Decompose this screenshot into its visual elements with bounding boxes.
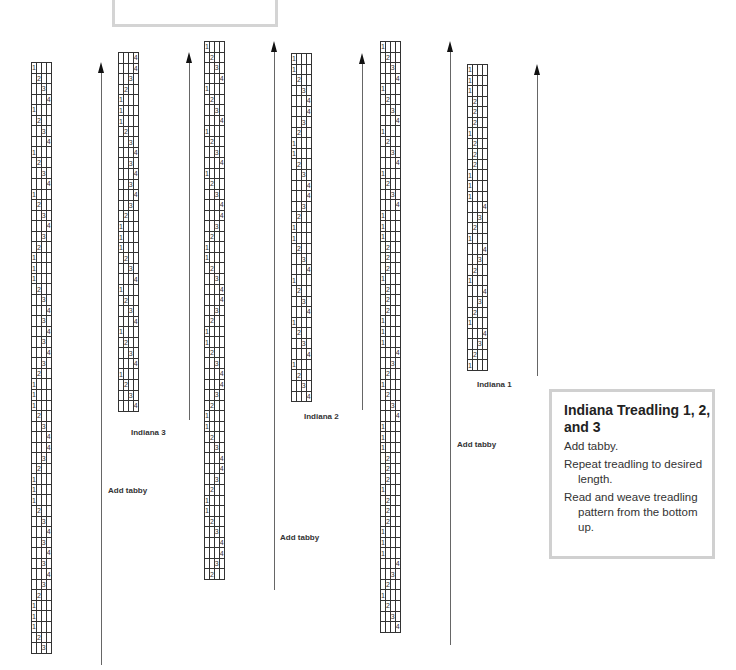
grid-row: 4 — [292, 180, 312, 191]
grid-cell: 4 — [219, 537, 224, 548]
grid-row: 4 — [32, 347, 52, 358]
grid-row: 2 — [32, 411, 52, 422]
grid-row: 1 — [468, 86, 488, 97]
grid-row: 2 — [205, 94, 225, 105]
grid-row: 1 — [119, 221, 139, 232]
grid-cell — [46, 505, 51, 516]
grid-cell: 4 — [46, 347, 51, 358]
grid-cell — [482, 297, 487, 308]
grid-cell — [46, 421, 51, 432]
grid-cell: 4 — [482, 202, 487, 213]
grid-cell — [395, 136, 400, 147]
grid-cell — [133, 95, 138, 106]
grid-cell — [46, 400, 51, 411]
grid-cell: 4 — [482, 244, 487, 255]
grid-row: 1 — [468, 75, 488, 86]
grid-cell — [306, 117, 311, 128]
arrow-up-icon — [98, 62, 104, 73]
grid-cell — [219, 326, 224, 337]
grid-cell — [395, 453, 400, 464]
grid-row: 3 — [292, 380, 312, 391]
grid-row: 1 — [32, 495, 52, 506]
grid-cell — [306, 148, 311, 159]
header-box-frame — [112, 0, 278, 27]
grid-cell: 4 — [395, 200, 400, 211]
grid-row: 4 — [32, 305, 52, 316]
grid-row: 1 — [32, 611, 52, 622]
grid-cell — [306, 286, 311, 297]
grid-cell: 4 — [133, 316, 138, 327]
grid-row: 2 — [205, 400, 225, 411]
grid-cell — [219, 231, 224, 242]
grid-cell — [46, 147, 51, 158]
grid-cell — [133, 158, 138, 169]
grid-row: 2 — [119, 84, 139, 95]
grid-row: 4 — [292, 307, 312, 318]
grid-row: 2 — [381, 579, 401, 590]
grid-cell — [395, 506, 400, 517]
grid-cell — [306, 212, 311, 223]
grid-cell — [395, 421, 400, 432]
grid-row: 1 — [381, 84, 401, 95]
treadling-grid: 4432111234343432111234123412341234 — [118, 52, 139, 412]
grid-row: 3 — [32, 421, 52, 432]
grid-cell — [46, 484, 51, 495]
add-tabby-label: Add tabby — [108, 486, 147, 495]
grid-row: 4 — [32, 179, 52, 190]
grid-row: 2 — [205, 516, 225, 527]
grid-row: 1 — [381, 537, 401, 548]
grid-cell — [219, 179, 224, 190]
grid-row: 2 — [468, 349, 488, 360]
grid-cell — [133, 179, 138, 190]
grid-cell — [219, 495, 224, 506]
grid-row: 4 — [205, 158, 225, 169]
grid-row: 1 — [381, 484, 401, 495]
grid-row: 4 — [292, 96, 312, 107]
grid-cell — [395, 527, 400, 538]
grid-row: 4 — [292, 349, 312, 360]
grid-cell — [395, 252, 400, 263]
add-tabby-label: Add tabby — [457, 440, 496, 449]
grid-cell — [219, 147, 224, 158]
grid-cell — [306, 233, 311, 244]
grid-row: 3 — [119, 137, 139, 148]
grid-row: 3 — [119, 200, 139, 211]
grid-row: 3 — [381, 611, 401, 622]
grid-row: 3 — [32, 358, 52, 369]
grid-cell — [46, 168, 51, 179]
grid-cell — [46, 611, 51, 622]
grid-row: 1 — [205, 506, 225, 517]
grid-row: 1 — [32, 400, 52, 411]
grid-row: 1 — [32, 105, 52, 116]
grid-cell — [46, 389, 51, 400]
grid-cell: 4 — [133, 358, 138, 369]
grid-cell — [306, 328, 311, 339]
grid-cell — [482, 233, 487, 244]
arrow-up-icon — [271, 41, 277, 52]
grid-row: 3 — [381, 105, 401, 116]
treadling-grid: 112344321123443211234123412341234 — [291, 53, 312, 402]
grid-row: 2 — [119, 337, 139, 348]
grid-row: 4 — [381, 411, 401, 422]
draft-caption: Indiana 2 — [304, 412, 339, 421]
grid-cell — [219, 474, 224, 485]
info-line-tabby: Add tabby. — [564, 439, 712, 454]
grid-cell — [395, 569, 400, 580]
grid-row: 1 — [468, 181, 488, 192]
grid-row: 3 — [32, 537, 52, 548]
grid-cell — [482, 159, 487, 170]
grid-cell — [395, 548, 400, 559]
grid-row: 2 — [205, 136, 225, 147]
grid-row: 3 — [468, 297, 488, 308]
grid-cell — [395, 105, 400, 116]
grid-cell — [395, 537, 400, 548]
grid-row: 1 — [119, 105, 139, 116]
grid-cell — [133, 74, 138, 85]
grid-row: 4 — [205, 200, 225, 211]
grid-row: 4 — [381, 73, 401, 84]
grid-row: 3 — [381, 358, 401, 369]
grid-cell — [395, 94, 400, 105]
grid-cell: 4 — [306, 349, 311, 360]
grid-cell — [395, 611, 400, 622]
read-direction-arrow — [362, 61, 363, 410]
